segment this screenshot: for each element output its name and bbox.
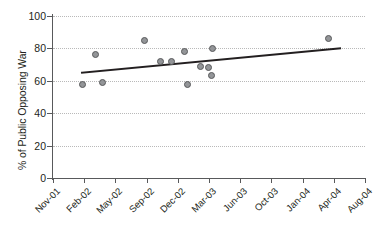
x-tick-mark <box>115 178 116 183</box>
x-tick-mark <box>334 178 335 183</box>
data-point <box>325 35 332 42</box>
data-point <box>205 64 212 71</box>
y-tick-label: 40 <box>6 108 46 118</box>
x-tick-mark <box>178 178 179 183</box>
gridline-20 <box>53 146 365 147</box>
data-point <box>168 58 175 65</box>
data-point <box>92 51 99 58</box>
data-point <box>184 81 191 88</box>
trend-line <box>53 16 365 178</box>
x-tick-mark <box>303 178 304 183</box>
x-tick-mark <box>240 178 241 183</box>
x-tick-mark <box>84 178 85 183</box>
x-tick-mark <box>147 178 148 183</box>
data-point <box>79 81 86 88</box>
data-point <box>141 37 148 44</box>
x-tick-mark <box>209 178 210 183</box>
gridline-100 <box>53 16 365 17</box>
data-point <box>157 58 164 65</box>
y-tick-label: 100 <box>6 11 46 21</box>
x-tick-mark <box>271 178 272 183</box>
data-point <box>99 79 106 86</box>
data-point <box>197 63 204 70</box>
gridline-40 <box>53 113 365 114</box>
x-tick-mark <box>53 178 54 183</box>
y-tick-label: 0 <box>6 173 46 183</box>
y-tick-label: 20 <box>6 141 46 151</box>
data-point <box>208 72 215 79</box>
data-point <box>181 48 188 55</box>
y-tick-label: 60 <box>6 76 46 86</box>
y-tick-label: 80 <box>6 43 46 53</box>
x-tick-mark <box>365 178 366 183</box>
data-point <box>209 45 216 52</box>
chart-container: % of Public Opposing War 020406080100 No… <box>0 0 377 230</box>
plot-area <box>53 16 365 178</box>
